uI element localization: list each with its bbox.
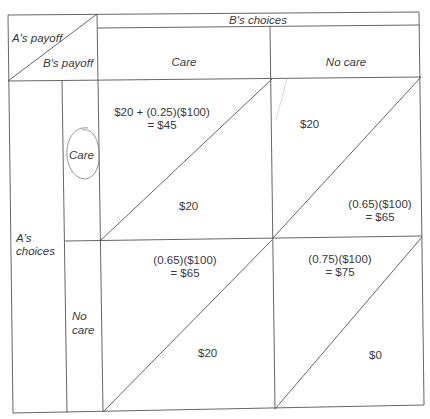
- row-header-no-care-line1: No: [72, 310, 87, 323]
- header-bottom-line: [8, 77, 421, 81]
- pen-mark: [276, 79, 287, 120]
- frame-left: [8, 15, 13, 413]
- col-divider-header: [97, 14, 103, 412]
- row-group-label-line2: choices: [16, 245, 55, 258]
- b-payoff-line2: = $65: [335, 211, 425, 224]
- row-label-divider: [62, 81, 67, 413]
- col-header-no-care: No care: [272, 56, 420, 69]
- cell-nocare-care-a-payoff: (0.65)($100) = $65: [140, 254, 230, 280]
- cell-nocare-nocare-a-payoff: (0.75)($100) = $75: [294, 253, 386, 279]
- row-header-care: Care: [69, 149, 94, 162]
- cell-care-care-b-payoff: $20: [179, 200, 198, 213]
- cell-nocare-nocare-b-payoff: $0: [369, 349, 382, 362]
- row-divider: [65, 236, 422, 241]
- cell-nocare-care-b-payoff: $20: [198, 347, 217, 360]
- a-payoff-line1: (0.65)($100): [140, 254, 230, 267]
- a-payoff-line1: (0.75)($100): [294, 253, 386, 266]
- corner-col-label: B's payoff: [43, 57, 93, 70]
- col-header-care: Care: [97, 56, 271, 69]
- corner-diagonal: [8, 14, 97, 81]
- cell-care-nocare-a-payoff: $20: [300, 118, 319, 131]
- row-group-label-line1: A's: [16, 232, 32, 245]
- corner-row-label: A's payoff: [12, 32, 62, 45]
- diag-care-care: [100, 79, 272, 241]
- a-payoff-line2: = $75: [294, 266, 386, 279]
- a-payoff-line2: = $65: [140, 267, 230, 280]
- b-payoff-line1: (0.65)($100): [335, 198, 425, 211]
- a-payoff-line2: = $45: [100, 119, 224, 132]
- cell-care-care-a-payoff: $20 + (0.25)($100) = $45: [100, 106, 224, 132]
- col-group-label: B's choices: [97, 14, 419, 27]
- frame-bottom: [13, 405, 424, 413]
- col-divider-care-nocare: [270, 26, 275, 409]
- a-payoff-line1: $20 + (0.25)($100): [100, 106, 224, 119]
- cell-care-nocare-b-payoff: (0.65)($100) = $65: [335, 198, 425, 224]
- row-header-no-care-line2: care: [72, 324, 94, 337]
